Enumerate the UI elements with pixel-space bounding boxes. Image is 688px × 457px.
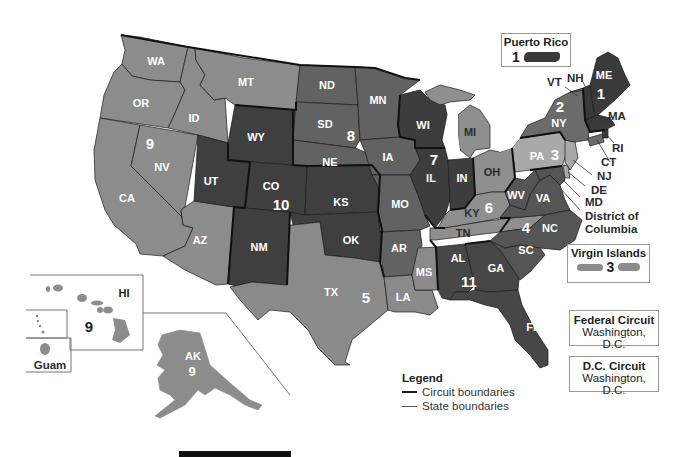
bottom-black-bar bbox=[179, 451, 291, 457]
legend: Legend Circuit boundaries State boundari… bbox=[402, 372, 515, 413]
circuit-number-6: 6 bbox=[485, 199, 493, 216]
virgin-islands-title: Virgin Islands bbox=[568, 247, 649, 259]
puerto-rico-island-shape bbox=[524, 52, 560, 62]
circuit-number-1: 1 bbox=[597, 85, 605, 102]
circuit-number-3: 3 bbox=[551, 146, 559, 163]
label-ky: KY bbox=[464, 207, 480, 219]
label-wi: WI bbox=[416, 119, 429, 131]
circuit-number-4: 4 bbox=[522, 219, 531, 236]
virgin-islands-inset: Virgin Islands 3 bbox=[567, 244, 650, 283]
callout-ri: RI bbox=[612, 142, 624, 155]
callout-ma: MA bbox=[608, 110, 626, 123]
label-guam: Guam bbox=[34, 359, 67, 371]
label-al: AL bbox=[451, 252, 466, 264]
circuit-number-10: 10 bbox=[273, 196, 290, 213]
legend-label-circuit: Circuit boundaries bbox=[422, 386, 515, 398]
circuit-number-9-ak: 9 bbox=[188, 364, 195, 379]
circuit-number-2: 2 bbox=[556, 98, 564, 115]
virgin-islands-circuit-number: 3 bbox=[607, 259, 615, 275]
label-co: CO bbox=[263, 180, 280, 192]
label-nv: NV bbox=[154, 161, 170, 173]
label-nc: NC bbox=[542, 222, 558, 234]
dc-circuit-box: D.C. Circuit Washington, D.C. bbox=[569, 356, 659, 392]
label-ny: NY bbox=[551, 117, 567, 129]
circuit-number-11: 11 bbox=[461, 273, 477, 290]
label-hi: HI bbox=[119, 287, 130, 299]
circuit-number-9: 9 bbox=[146, 135, 154, 152]
label-va: VA bbox=[536, 192, 551, 204]
label-mn: MN bbox=[369, 94, 386, 106]
circuit-1-region bbox=[583, 52, 630, 138]
label-or: OR bbox=[133, 97, 150, 109]
puerto-rico-circuit-number: 1 bbox=[512, 49, 520, 65]
guam-island-dots bbox=[36, 315, 50, 355]
label-ut: UT bbox=[204, 175, 219, 187]
federal-circuit-box: Federal Circuit Washington, D.C. bbox=[569, 310, 659, 346]
legend-title: Legend bbox=[402, 372, 515, 384]
label-wv: WV bbox=[507, 189, 525, 201]
label-wy: WY bbox=[247, 131, 265, 143]
label-in: IN bbox=[457, 172, 468, 184]
callout-dc-line1: District of bbox=[585, 210, 639, 223]
legend-label-state: State boundaries bbox=[422, 400, 509, 412]
label-ga: GA bbox=[488, 262, 505, 274]
guam-frame bbox=[26, 310, 67, 338]
label-me: ME bbox=[596, 69, 613, 81]
puerto-rico-inset: Puerto Rico 1 bbox=[501, 33, 571, 67]
dc-circuit-location: Washington, D.C. bbox=[570, 372, 658, 396]
callout-nj: NJ bbox=[597, 170, 612, 183]
label-ak: AK bbox=[185, 350, 201, 362]
federal-circuit-title: Federal Circuit bbox=[570, 314, 658, 326]
label-mi: MI bbox=[464, 126, 476, 138]
callout-dc-line2: Columbia bbox=[585, 223, 639, 236]
label-tn: TN bbox=[456, 227, 471, 239]
label-ok: OK bbox=[343, 234, 360, 246]
circuit-number-5: 5 bbox=[362, 289, 370, 306]
legend-item-state-boundaries: State boundaries bbox=[402, 399, 515, 413]
circuit-number-9-hi: 9 bbox=[85, 318, 93, 335]
label-mo: MO bbox=[391, 198, 409, 210]
state-ct[interactable] bbox=[588, 134, 604, 146]
label-ks: KS bbox=[333, 196, 348, 208]
federal-circuit-location: Washington, D.C. bbox=[570, 326, 658, 350]
puerto-rico-title: Puerto Rico bbox=[502, 36, 570, 48]
circuit-number-7: 7 bbox=[430, 151, 438, 168]
label-fl: FL bbox=[526, 321, 540, 333]
label-ca: CA bbox=[119, 192, 135, 204]
label-az: AZ bbox=[193, 234, 208, 246]
circuit-number-8: 8 bbox=[347, 127, 355, 144]
label-ne: NE bbox=[322, 156, 337, 168]
label-tx: TX bbox=[324, 286, 339, 298]
callout-nh: NH bbox=[567, 72, 584, 85]
virgin-islands-shape-2 bbox=[618, 263, 640, 271]
dc-circuit-title: D.C. Circuit bbox=[570, 360, 658, 372]
virgin-islands-shape-1 bbox=[577, 264, 603, 271]
callout-dc: District of Columbia bbox=[585, 210, 639, 236]
label-la: LA bbox=[396, 291, 411, 303]
label-mt: MT bbox=[238, 76, 254, 88]
legend-item-circuit-boundaries: Circuit boundaries bbox=[402, 385, 515, 399]
label-il: IL bbox=[426, 172, 436, 184]
label-ia: IA bbox=[383, 151, 394, 163]
label-ms: MS bbox=[416, 266, 433, 278]
label-pa: PA bbox=[530, 150, 545, 162]
label-oh: OH bbox=[484, 166, 501, 178]
label-sd: SD bbox=[317, 118, 332, 130]
label-id: ID bbox=[189, 112, 200, 124]
callout-md: MD bbox=[585, 196, 603, 209]
callout-ct: CT bbox=[601, 156, 616, 169]
label-ar: AR bbox=[391, 242, 407, 254]
state-ak[interactable] bbox=[155, 330, 262, 418]
callout-vt: VT bbox=[547, 76, 562, 89]
label-nm: NM bbox=[250, 241, 267, 253]
label-sc: SC bbox=[518, 244, 533, 256]
thin-line-icon bbox=[402, 406, 417, 407]
label-wa: WA bbox=[147, 55, 165, 67]
thick-line-icon bbox=[402, 391, 417, 393]
label-nd: ND bbox=[319, 79, 335, 91]
